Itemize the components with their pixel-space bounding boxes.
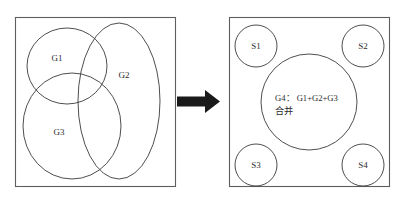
group-label-g3: G3 bbox=[54, 127, 65, 137]
satellite-label-s2: S2 bbox=[358, 41, 368, 51]
merged-group-label-line1: G4： G1+G2+G3 bbox=[275, 93, 338, 103]
satellite-label-s3: S3 bbox=[251, 160, 261, 170]
group-label-g2: G2 bbox=[119, 70, 130, 80]
right-panel-after: G4： G1+G2+G3 合并 S1 S2 S3 S4 bbox=[230, 18, 390, 187]
right-arrow-icon bbox=[177, 90, 220, 113]
merge-diagram: G1 G2 G3 G4： G1+G2+G3 合并 S1 S2 S3 S4 bbox=[0, 0, 404, 203]
group-label-g1: G1 bbox=[52, 53, 63, 63]
merged-group-label-line2: 合并 bbox=[275, 105, 293, 116]
satellite-label-s1: S1 bbox=[251, 41, 261, 51]
diagram-canvas: G1 G2 G3 G4： G1+G2+G3 合并 S1 S2 S3 S4 bbox=[0, 0, 404, 203]
transform-arrow bbox=[177, 90, 220, 113]
left-panel-before: G1 G2 G3 bbox=[16, 18, 176, 187]
left-panel-frame bbox=[16, 18, 176, 187]
satellite-label-s4: S4 bbox=[358, 160, 368, 170]
